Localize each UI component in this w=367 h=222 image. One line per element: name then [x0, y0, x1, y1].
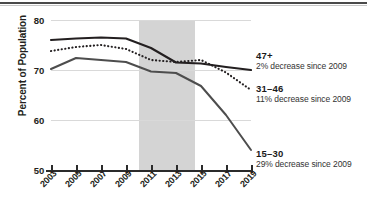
y-tick-label-50: 50 — [18, 165, 44, 176]
series-annotation-31-46-note: 11% decrease since 2009 — [256, 94, 351, 105]
series-annotation-47plus: 47+ 2% decrease since 2009 — [256, 50, 347, 72]
series-annotation-47plus-note: 2% decrease since 2009 — [256, 61, 347, 72]
series-annotation-15-30: 15–30 29% decrease since 2009 — [256, 148, 352, 170]
top-divider-rule — [0, 2, 367, 4]
series-annotation-31-46: 31–46 11% decrease since 2009 — [256, 83, 351, 105]
series-lines — [51, 20, 251, 170]
series-annotation-31-46-name: 31–46 — [256, 83, 351, 94]
y-tick-label-70: 70 — [18, 65, 44, 76]
series-annotation-47plus-name: 47+ — [256, 50, 347, 61]
series-annotation-15-30-note: 29% decrease since 2009 — [256, 159, 352, 170]
series-line-47plus — [51, 38, 251, 71]
y-tick-label-60: 60 — [18, 115, 44, 126]
top-divider-rule-light — [0, 5, 367, 6]
series-line-31-46 — [51, 45, 251, 90]
chart-figure: Percent of Population 80 70 60 50 2003 2… — [0, 0, 367, 222]
series-annotation-15-30-name: 15–30 — [256, 148, 352, 159]
y-tick-label-80: 80 — [18, 15, 44, 26]
plot-area — [51, 20, 251, 170]
series-line-15-30 — [51, 58, 251, 150]
